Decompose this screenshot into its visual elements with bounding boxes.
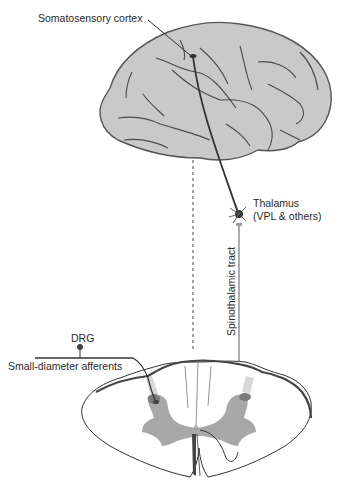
pain-pathway-diagram	[0, 0, 338, 481]
brain	[100, 22, 331, 160]
spinothalamic-tract-label: Spinothalamic tract	[225, 247, 237, 336]
somatosensory-cortex-label: Somatosensory cortex	[38, 12, 142, 24]
small-diameter-afferents-label: Small-diameter afferents	[8, 360, 122, 372]
thalamus-label: Thalamus	[253, 197, 299, 209]
thalamus-neuron	[229, 205, 246, 223]
drg-cell-body	[77, 344, 83, 350]
thalamus-sublabel: (VPL & others)	[253, 210, 321, 222]
drg-label: DRG	[71, 332, 94, 344]
tract-terminal	[236, 223, 242, 226]
spinal-cord	[82, 361, 312, 478]
